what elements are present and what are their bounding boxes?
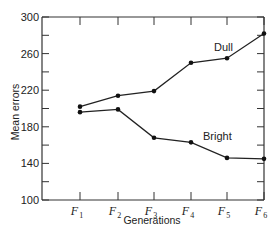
data-point (116, 107, 121, 112)
series-labels: DullBright (203, 41, 233, 142)
x-tick-label: F2 (108, 204, 121, 220)
data-point (116, 93, 121, 98)
data-point (78, 110, 83, 115)
data-point (78, 104, 83, 109)
y-axis-title: Mean errors (9, 84, 21, 141)
y-tick-label: 100 (21, 194, 39, 206)
data-point (189, 60, 194, 65)
x-tick-label: F5 (217, 204, 230, 220)
y-tick-label: 220 (21, 84, 39, 96)
data-point (262, 31, 267, 36)
data-point (152, 135, 157, 140)
series-line-bright (80, 109, 264, 158)
y-tick-label: 300 (21, 11, 39, 23)
data-point (225, 56, 230, 61)
x-tick-label: F6 (254, 204, 267, 220)
series-lines (78, 31, 267, 161)
data-point (189, 140, 194, 145)
data-point (262, 157, 267, 162)
line-chart: 100140180220260300 F1F2F3F4F5F6 DullBrig… (0, 0, 280, 236)
data-point (152, 89, 157, 94)
y-tick-label: 140 (21, 157, 39, 169)
x-axis-title: Generations (123, 214, 180, 226)
series-label-dull: Dull (214, 41, 233, 53)
x-axis-ticks: F1F2F3F4F5F6 (70, 17, 267, 220)
data-point (225, 156, 230, 161)
series-label-bright: Bright (203, 130, 232, 142)
y-tick-label: 260 (21, 48, 39, 60)
x-tick-label: F4 (181, 204, 194, 220)
series-line-dull (80, 34, 264, 107)
y-tick-label: 180 (21, 121, 39, 133)
x-tick-label: F1 (70, 204, 83, 220)
